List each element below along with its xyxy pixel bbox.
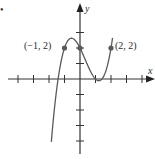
y-axis-arrow-icon <box>77 3 84 12</box>
bullet-marker: • <box>0 4 4 15</box>
y-axis-label: y <box>84 3 90 14</box>
function-curve <box>51 38 112 142</box>
point-marker <box>62 45 67 50</box>
point-marker <box>77 45 82 50</box>
point-label-neg1-2: (−1, 2) <box>24 40 51 52</box>
graph-figure: • x y (−1, 2) (2, 2) <box>0 0 155 159</box>
point-label-2-2: (2, 2) <box>115 40 137 52</box>
x-axis-arrow-icon <box>146 76 155 83</box>
marked-points <box>62 45 114 50</box>
point-marker <box>108 45 113 50</box>
x-axis-label: x <box>147 65 153 76</box>
x-axis <box>8 75 155 83</box>
